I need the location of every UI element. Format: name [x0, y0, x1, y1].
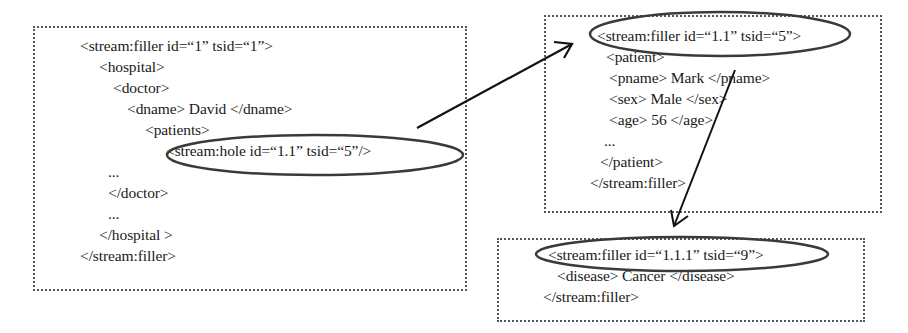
patient-filler-close-tag: </stream:filler>	[590, 174, 686, 192]
hospital-close-tag: </hospital >	[99, 226, 173, 244]
patient-filler-open-tag: <stream:filler id=“1.1” tsid=“5”>	[597, 27, 801, 45]
disease-element: <disease> Cancer </disease>	[557, 267, 735, 285]
age-element: <age> 56 </age>	[609, 111, 713, 129]
patient-close-tag: </patient>	[600, 153, 663, 171]
doctor-open-tag: <doctor>	[113, 79, 169, 97]
ellipsis-2: ...	[108, 205, 119, 223]
dname-element: <dname> David </dname>	[127, 100, 292, 118]
root-filler-open-tag: <stream:filler id=“1” tsid=“1”>	[80, 37, 273, 55]
ellipsis-3: ...	[604, 132, 615, 150]
ellipsis-1: ...	[108, 163, 119, 181]
pname-element: <pname> Mark </pname>	[609, 69, 770, 87]
doctor-close-tag: </doctor>	[108, 184, 169, 202]
disease-filler-close-tag: </stream:filler>	[543, 288, 639, 306]
patients-open-tag: <patients>	[145, 121, 210, 139]
root-filler-close-tag: </stream:filler>	[80, 247, 176, 265]
sex-element: <sex> Male </sex>	[609, 90, 728, 108]
disease-filler-open-tag: <stream:filler id=“1.1.1” tsid=“9”>	[548, 246, 764, 264]
stream-hole-tag: <stream:hole id=“1.1” tsid=“5”/>	[166, 142, 371, 160]
hospital-open-tag: <hospital>	[99, 58, 165, 76]
patient-open-tag: <patient>	[606, 48, 665, 66]
